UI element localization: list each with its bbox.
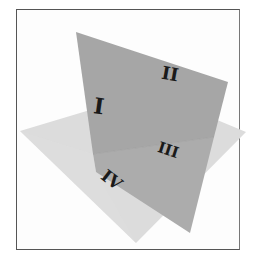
dihedral-figure: I II III IV — [0, 0, 256, 262]
region-label-ii: II — [160, 62, 180, 86]
planes-drawing: I II III IV — [0, 0, 256, 262]
